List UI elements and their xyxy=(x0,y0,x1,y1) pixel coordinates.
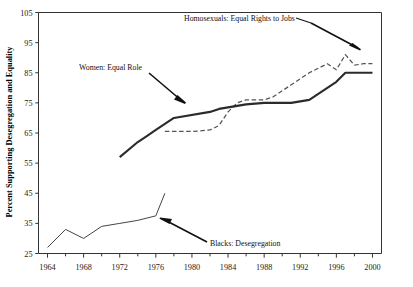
chart-canvas: Percent Supporting Desegregation and Equ… xyxy=(0,0,413,287)
y-tick-label: 25 xyxy=(24,250,32,259)
y-tick-label: 75 xyxy=(24,99,32,108)
x-tick-label: 1980 xyxy=(184,263,200,272)
x-tick-label: 1992 xyxy=(292,263,308,272)
x-tick-label: 1984 xyxy=(220,263,236,272)
y-tick-label: 105 xyxy=(20,9,32,18)
y-tick-label: 55 xyxy=(24,159,32,168)
y-axis-title-text: Percent Supporting Desegregation and Equ… xyxy=(5,46,14,218)
y-tick-label: 95 xyxy=(24,39,32,48)
chart-background xyxy=(0,0,413,287)
x-tick-label: 1996 xyxy=(328,263,344,272)
y-tick-label: 85 xyxy=(24,69,32,78)
chart-figure: Percent Supporting Desegregation and Equ… xyxy=(0,0,413,287)
y-axis-title: Percent Supporting Desegregation and Equ… xyxy=(5,46,14,218)
x-tick-label: 1988 xyxy=(256,263,272,272)
y-tick-label: 45 xyxy=(24,189,32,198)
x-tick-label: 1976 xyxy=(148,263,164,272)
y-tick-label: 35 xyxy=(24,219,32,228)
x-tick-label: 1972 xyxy=(112,263,128,272)
y-tick-label: 65 xyxy=(24,129,32,138)
annotation-label-homosexuals: Homosexuals: Equal Rights to Jobs xyxy=(184,14,295,23)
x-tick-label: 2000 xyxy=(364,263,380,272)
x-tick-label: 1964 xyxy=(39,263,55,272)
x-tick-label: 1968 xyxy=(75,263,91,272)
annotation-label-women: Women: Equal Role xyxy=(79,63,143,72)
annotation-label-blacks: Blacks: Desegregation xyxy=(210,239,280,248)
